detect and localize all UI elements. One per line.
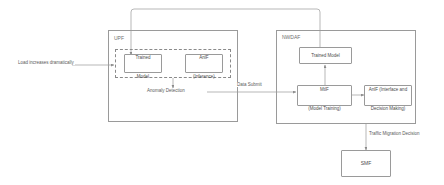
node-nwdaf-mtlf-line1: MtlF (320, 87, 329, 92)
edge-label-anomaly-detection: Anomaly Detection (146, 88, 186, 93)
node-nwdaf-mtlf-line2: (Model Training) (308, 106, 341, 111)
container-upf-label: UPF (114, 35, 124, 41)
node-nwdaf-trained-model-label: Trained Model (311, 53, 340, 58)
node-nwdaf-anlf[interactable]: AnlF (Interface and Decision Making) (364, 85, 412, 106)
node-upf-anlf-line1: AnlF (199, 55, 208, 60)
node-nwdaf-anlf-line1: AnlF (Interface and (369, 87, 407, 92)
diagram-canvas: UPF Trained Model AnlF (Inference) NWDAF… (0, 0, 444, 185)
node-nwdaf-mtlf[interactable]: MtlF (Model Training) (297, 85, 352, 106)
node-smf-label: SMF (361, 161, 372, 167)
container-nwdaf-label: NWDAF (282, 34, 300, 40)
node-nwdaf-trained-model[interactable]: Trained Model (299, 47, 352, 64)
edge-label-load-increases: Load increases dramatically (17, 60, 75, 65)
node-upf-anlf[interactable]: AnlF (Inference) (185, 54, 223, 73)
node-smf[interactable]: SMF (341, 150, 391, 177)
edge-label-traffic-migration: Traffic Migration Decision (368, 131, 421, 136)
node-nwdaf-anlf-line2: Decision Making) (371, 106, 406, 111)
node-upf-trained-model[interactable]: Trained Model (124, 54, 162, 73)
node-upf-trained-model-line1: Trained (135, 55, 150, 60)
edge-label-data-submit: Data Submit (236, 82, 263, 87)
node-upf-trained-model-line2: Model (137, 74, 149, 79)
node-upf-anlf-line2: (Inference) (193, 74, 215, 79)
